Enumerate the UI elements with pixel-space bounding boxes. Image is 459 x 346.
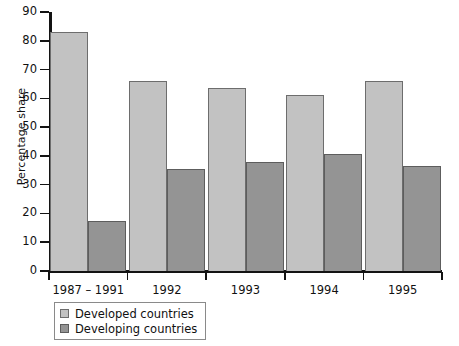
bar-developed-4 xyxy=(365,81,403,271)
y-axis-tick xyxy=(40,241,49,243)
bar-developing-2 xyxy=(246,162,284,271)
x-axis-tick-label: 1992 xyxy=(152,283,181,297)
y-axis-tick xyxy=(40,69,49,71)
bar-developing-3 xyxy=(324,154,362,271)
plot-area xyxy=(49,12,442,271)
x-axis-tick-label: 1995 xyxy=(388,283,417,297)
bar-developing-0 xyxy=(88,221,126,271)
y-axis-tick xyxy=(40,98,49,100)
x-axis-tick xyxy=(284,272,286,280)
y-axis-tick-label: 60 xyxy=(0,90,37,104)
x-axis-tick-label: 1993 xyxy=(231,283,260,297)
y-axis-tick-label: 0 xyxy=(0,263,37,277)
bar-developed-1 xyxy=(129,81,167,271)
y-axis-tick xyxy=(40,40,49,42)
x-axis-tick xyxy=(205,272,207,280)
x-axis-tick xyxy=(441,272,443,280)
legend-item-developed: Developed countries xyxy=(60,306,197,321)
legend: Developed countries Developing countries xyxy=(54,302,206,340)
bar-developed-2 xyxy=(208,88,246,271)
x-axis-tick-label: 1987 – 1991 xyxy=(52,283,124,297)
bar-developed-3 xyxy=(286,95,324,271)
x-axis-tick xyxy=(48,272,50,280)
x-axis-tick xyxy=(363,272,365,280)
y-axis-tick-label: 10 xyxy=(0,234,37,248)
x-axis-tick xyxy=(127,272,129,280)
legend-swatch-icon-developed xyxy=(60,309,69,318)
legend-item-developing: Developing countries xyxy=(60,321,197,336)
y-axis-tick-label: 50 xyxy=(0,119,37,133)
legend-swatch-icon-developing xyxy=(60,324,69,333)
bar-developing-1 xyxy=(167,169,205,271)
y-axis-tick-label: 30 xyxy=(0,177,37,191)
legend-label-developed: Developed countries xyxy=(75,307,194,321)
y-axis-tick-label: 70 xyxy=(0,62,37,76)
y-axis-tick-label: 90 xyxy=(0,4,37,18)
y-axis-tick-label: 20 xyxy=(0,205,37,219)
y-axis-tick xyxy=(40,126,49,128)
y-axis-tick xyxy=(40,213,49,215)
bar-developing-4 xyxy=(403,166,441,271)
x-axis-tick-label: 1994 xyxy=(309,283,338,297)
bar-chart: Percentage share 0102030405060708090 198… xyxy=(0,0,459,346)
y-axis-tick-label: 80 xyxy=(0,33,37,47)
y-axis-tick xyxy=(40,184,49,186)
y-axis-tick xyxy=(40,155,49,157)
y-axis-tick-label: 40 xyxy=(0,148,37,162)
y-axis-tick xyxy=(40,11,49,13)
legend-label-developing: Developing countries xyxy=(75,322,197,336)
bar-developed-0 xyxy=(50,32,88,271)
